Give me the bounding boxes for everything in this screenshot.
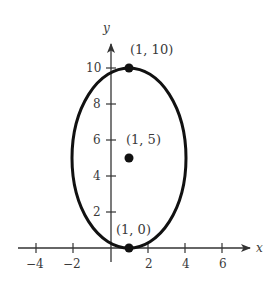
point-top-vertex	[125, 64, 134, 73]
point-label-bottom: (1, 0)	[116, 222, 151, 237]
y-tick-label: 10	[86, 61, 101, 75]
point-bottom-vertex	[125, 244, 134, 253]
y-tick-label: 8	[93, 97, 101, 111]
y-tick-label: 4	[93, 169, 101, 183]
x-tick-label: 6	[219, 257, 227, 271]
point-label-top: (1, 10)	[130, 42, 173, 57]
x-tick-label: −2	[63, 257, 81, 271]
ellipse-diagram: x y −4 −2 2 4 6 2 4 6 8 10 (1, 10) (1, 5…	[0, 0, 277, 286]
y-tick-label: 2	[93, 205, 101, 219]
x-tick-label: 4	[182, 257, 190, 271]
x-tick-label: 2	[145, 257, 153, 271]
x-axis-label: x	[256, 241, 263, 255]
y-tick-label: 6	[93, 133, 101, 147]
x-tick-labels: −4 −2 2 4 6	[26, 257, 227, 271]
x-tick-label: −4	[26, 257, 44, 271]
y-axis-label: y	[102, 21, 110, 35]
point-center	[125, 154, 134, 163]
y-tick-labels: 2 4 6 8 10	[86, 61, 101, 219]
point-label-center: (1, 5)	[126, 132, 161, 147]
